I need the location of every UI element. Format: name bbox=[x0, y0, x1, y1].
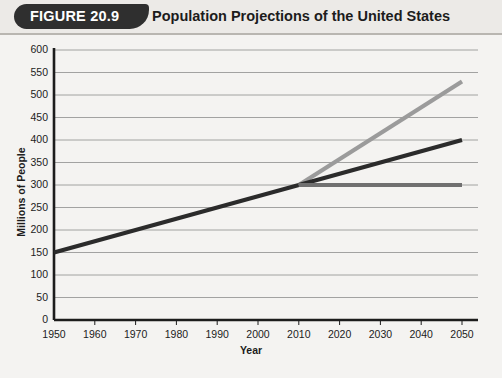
y-tick-label: 450 bbox=[12, 111, 48, 123]
x-tick-label: 1970 bbox=[113, 328, 159, 340]
figure-number-badge: FIGURE 20.9 bbox=[14, 4, 149, 29]
gridlines-group bbox=[54, 50, 478, 298]
chart-region: Millions of People Year 0501001502002503… bbox=[0, 36, 502, 378]
x-tick-label: 2020 bbox=[317, 328, 363, 340]
series-line bbox=[299, 82, 462, 186]
x-tick-label: 1990 bbox=[194, 328, 240, 340]
y-tick-label: 350 bbox=[12, 156, 48, 168]
y-tick-label: 0 bbox=[12, 313, 48, 325]
x-tick-label: 2010 bbox=[276, 328, 322, 340]
y-tick-label: 150 bbox=[12, 246, 48, 258]
y-tick-label: 400 bbox=[12, 133, 48, 145]
header-divider bbox=[0, 33, 502, 35]
x-tick-label: 2030 bbox=[357, 328, 403, 340]
y-tick-label: 250 bbox=[12, 201, 48, 213]
y-tick-label: 550 bbox=[12, 66, 48, 78]
figure-header: FIGURE 20.9 Population Projections of th… bbox=[0, 0, 502, 34]
data-series-group bbox=[54, 82, 462, 253]
x-tick-label: 1960 bbox=[72, 328, 118, 340]
y-tick-label: 300 bbox=[12, 178, 48, 190]
y-tick-label: 200 bbox=[12, 223, 48, 235]
figure-title: Population Projections of the United Sta… bbox=[152, 4, 450, 29]
y-tick-label: 50 bbox=[12, 291, 48, 303]
x-tick-label: 1950 bbox=[31, 328, 77, 340]
y-tick-label: 100 bbox=[12, 268, 48, 280]
x-tick-label: 1980 bbox=[153, 328, 199, 340]
x-tick-label: 2050 bbox=[439, 328, 485, 340]
series-line bbox=[54, 185, 299, 253]
line-chart-plot bbox=[0, 36, 502, 378]
x-tick-label: 2040 bbox=[398, 328, 444, 340]
y-tick-label: 500 bbox=[12, 88, 48, 100]
y-tick-label: 600 bbox=[12, 43, 48, 55]
x-tick-label: 2000 bbox=[235, 328, 281, 340]
